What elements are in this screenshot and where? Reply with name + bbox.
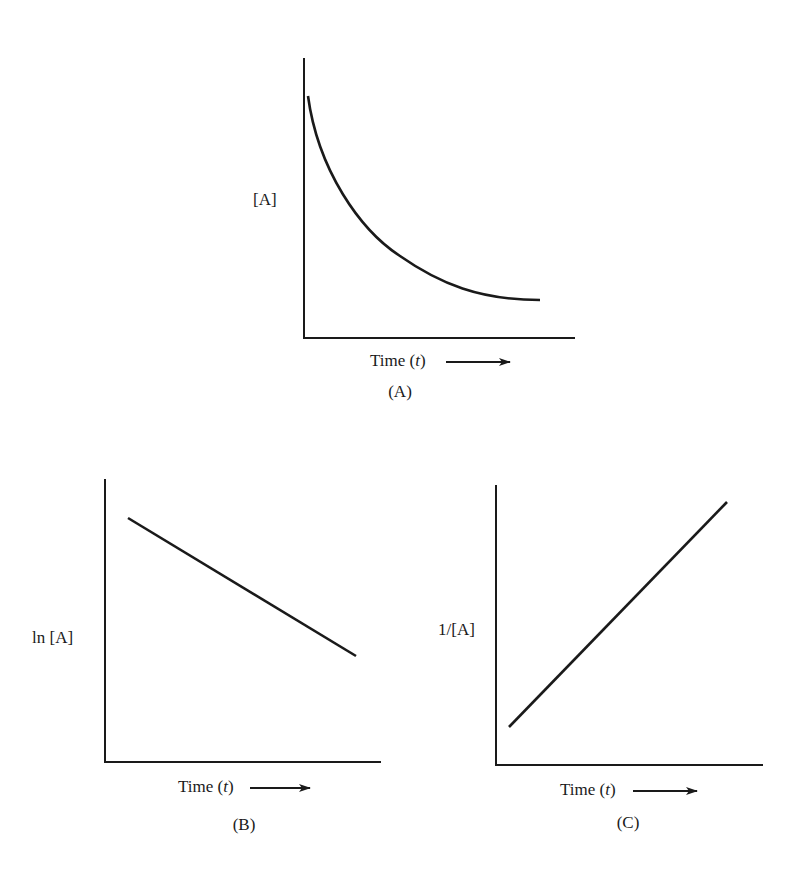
chart-c-ylabel: 1/[A] bbox=[438, 620, 475, 639]
chart-a-xlabel: Time (t) bbox=[370, 351, 426, 370]
chart-a-xlabel-group: Time (t) bbox=[370, 351, 510, 370]
chart-c-xlabel-group: Time (t) bbox=[560, 780, 697, 799]
chart-a-ylabel: [A] bbox=[253, 190, 277, 209]
chart-b-line bbox=[128, 518, 356, 656]
chart-b-caption: (B) bbox=[233, 815, 256, 834]
chart-b-axes bbox=[105, 479, 381, 762]
chart-b-xlabel: Time (t) bbox=[178, 777, 234, 796]
chart-a-caption: (A) bbox=[388, 382, 412, 401]
chart-c-axes bbox=[496, 485, 763, 765]
chart-b-xlabel-group: Time (t) bbox=[178, 777, 310, 796]
chart-a-decay-curve bbox=[308, 96, 540, 300]
chart-c-caption: (C) bbox=[617, 813, 640, 832]
chart-b: ln [A] Time (t) (B) bbox=[32, 479, 381, 834]
chart-a: [A] Time (t) (A) bbox=[253, 58, 575, 401]
chart-c-line bbox=[509, 502, 727, 727]
chart-b-ylabel: ln [A] bbox=[32, 628, 73, 647]
chart-c: 1/[A] Time (t) (C) bbox=[438, 485, 763, 832]
kinetics-figure: [A] Time (t) (A) ln [A] Time (t) (B) 1/[… bbox=[0, 0, 804, 874]
chart-c-xlabel: Time (t) bbox=[560, 780, 616, 799]
